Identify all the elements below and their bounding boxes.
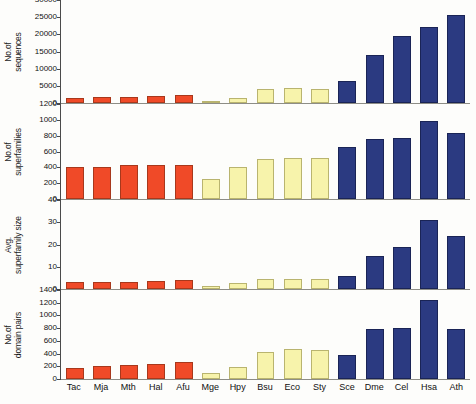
bar-dme-0	[366, 55, 384, 103]
bar-slot-hpy-2	[225, 200, 252, 289]
x-axis-label-cel: Cel	[388, 380, 415, 397]
bar-slot-ath-1	[443, 104, 470, 199]
y-axis-title-0: No.ofsequences	[0, 0, 26, 104]
bar-cel-0	[393, 36, 411, 103]
bar-slot-sty-2	[306, 200, 333, 289]
bar-eco-3	[284, 349, 302, 380]
bar-slot-afu-3	[170, 290, 197, 379]
y-tick-label-0-6: 30000	[35, 0, 57, 4]
bar-tac-0	[66, 98, 84, 103]
y-axis-title-line2-2: superfamily size	[13, 216, 23, 274]
bar-series-1	[61, 104, 470, 199]
y-tick-label-0-4: 20000	[35, 30, 57, 38]
bar-series-0	[61, 0, 470, 103]
y-tick-label-1-6: 1200	[39, 100, 57, 108]
bar-slot-cel-1	[388, 104, 415, 199]
x-axis-label-afu: Afu	[169, 380, 196, 397]
plot-area-3	[60, 290, 470, 380]
bar-hsa-2	[420, 220, 438, 289]
bar-hal-0	[147, 96, 165, 103]
y-axis-title-text-1: No.ofsuperfamilies	[3, 128, 23, 175]
chart-panel-3: No.ofdomain pairs02004006008001000120014…	[0, 290, 476, 380]
y-axis-title-line2-3: domain pairs	[13, 312, 23, 358]
bar-mth-0	[120, 97, 138, 103]
y-tick-label-2-3: 30	[48, 218, 57, 226]
y-tick-label-0-1: 5000	[39, 82, 57, 90]
bar-slot-afu-0	[170, 0, 197, 103]
bar-slot-sty-1	[306, 104, 333, 199]
x-axis-label-sty: Sty	[306, 380, 333, 397]
y-tick-label-1-1: 200	[44, 179, 57, 187]
bar-ath-1	[447, 133, 465, 200]
y-axis-tick-labels-0: 050001000015000200002500030000	[26, 0, 60, 104]
y-axis-title-text-2: Avg.superfamily size	[3, 216, 23, 274]
bar-series-2	[61, 200, 470, 289]
bar-slot-hpy-0	[225, 0, 252, 103]
bar-slot-mja-1	[88, 104, 115, 199]
bar-slot-hsa-1	[415, 104, 442, 199]
bar-dme-2	[366, 256, 384, 289]
bar-hpy-3	[229, 367, 247, 379]
bar-eco-2	[284, 279, 302, 289]
y-axis-title-text-0: No.ofsequences	[3, 32, 23, 71]
y-axis-title-line1-2: Avg.	[3, 216, 13, 274]
chart-panel-2: Avg.superfamily size010203040	[0, 200, 476, 290]
bar-ath-3	[447, 329, 465, 379]
bar-slot-sce-2	[334, 200, 361, 289]
bar-slot-hsa-2	[415, 200, 442, 289]
bar-mja-2	[93, 282, 111, 289]
bar-slot-tac-1	[61, 104, 88, 199]
y-tick-label-1-3: 600	[44, 148, 57, 156]
bar-sce-0	[338, 81, 356, 103]
bar-slot-hal-1	[143, 104, 170, 199]
chart-panel-0: No.ofsequences05000100001500020000250003…	[0, 0, 476, 104]
bar-tac-3	[66, 368, 84, 379]
plot-area-0	[60, 0, 470, 104]
bar-dme-1	[366, 139, 384, 199]
y-axis-title-line1-1: No.of	[3, 128, 13, 175]
bar-hpy-2	[229, 283, 247, 289]
y-tick-label-2-1: 10	[48, 263, 57, 271]
y-axis-title-line1-0: No.of	[3, 32, 13, 71]
bar-sty-0	[311, 89, 329, 103]
bar-cel-2	[393, 247, 411, 289]
bar-mja-1	[93, 167, 111, 199]
bar-bsu-0	[257, 89, 275, 103]
bar-slot-bsu-2	[252, 200, 279, 289]
bar-mth-1	[120, 165, 138, 199]
bar-cel-1	[393, 138, 411, 199]
x-axis-category-labels: TacMjaMthHalAfuMgeHpyBsuEcoStySceDmeCelH…	[0, 380, 476, 397]
bar-slot-mth-0	[116, 0, 143, 103]
bar-hpy-0	[229, 98, 247, 103]
bar-slot-mge-0	[197, 0, 224, 103]
y-axis-title-2: Avg.superfamily size	[0, 200, 26, 290]
y-tick-label-3-7: 1400	[39, 286, 57, 294]
x-axis-label-mth: Mth	[115, 380, 142, 397]
bar-slot-eco-0	[279, 0, 306, 103]
bar-ath-0	[447, 15, 465, 103]
y-axis-title-1: No.ofsuperfamilies	[0, 104, 26, 200]
y-tick-label-3-1: 200	[44, 362, 57, 370]
bar-sty-3	[311, 350, 329, 379]
chart-panel-1: No.ofsuperfamilies020040060080010001200	[0, 104, 476, 200]
bar-slot-ath-3	[443, 290, 470, 379]
x-axis-label-sce: Sce	[333, 380, 360, 397]
y-axis-tick-labels-2: 010203040	[26, 200, 60, 290]
x-axis-label-hal: Hal	[142, 380, 169, 397]
x-axis-label-dme: Dme	[361, 380, 388, 397]
y-tick-label-1-4: 800	[44, 132, 57, 140]
x-axis-label-eco: Eco	[279, 380, 306, 397]
plot-area-2	[60, 200, 470, 290]
bar-bsu-1	[257, 159, 275, 199]
y-tick-label-3-2: 400	[44, 350, 57, 358]
bar-slot-eco-2	[279, 200, 306, 289]
y-tick-label-2-4: 40	[48, 196, 57, 204]
bar-series-3	[61, 290, 470, 379]
bar-slot-mth-1	[116, 104, 143, 199]
bar-dme-3	[366, 329, 384, 379]
bar-eco-1	[284, 158, 302, 199]
bar-mth-2	[120, 282, 138, 289]
y-tick-label-3-6: 1200	[39, 299, 57, 307]
bar-slot-sce-3	[334, 290, 361, 379]
x-axis-label-hpy: Hpy	[224, 380, 251, 397]
